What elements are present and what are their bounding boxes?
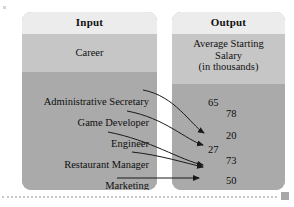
- bottom-right-marker: [281, 192, 289, 200]
- output-value-35: 35: [208, 188, 219, 190]
- output-panel: Output Average Starting Salary (in thous…: [172, 12, 285, 190]
- output-value-20: 20: [226, 130, 237, 141]
- input-column-subtitle: Career: [22, 47, 157, 59]
- mapping-diagram: Input Career Administrative Secretary Ga…: [0, 0, 294, 207]
- bottom-dotted-rule: [2, 196, 277, 198]
- output-value-73: 73: [226, 155, 237, 166]
- output-subtitle-line-2: Salary: [172, 50, 285, 62]
- output-value-27: 27: [208, 144, 219, 155]
- input-column-title: Input: [22, 16, 157, 28]
- output-column-subtitle: Average Starting Salary (in thousands): [172, 38, 285, 73]
- output-value-65: 65: [208, 97, 219, 108]
- output-column-title: Output: [172, 16, 285, 28]
- input-item-game-developer: Game Developer: [78, 117, 149, 128]
- input-item-marketing: Marketing: [105, 180, 149, 190]
- input-panel: Input Career Administrative Secretary Ga…: [22, 12, 157, 190]
- output-subtitle-line-3: (in thousands): [172, 61, 285, 73]
- output-value-50: 50: [226, 175, 237, 186]
- input-item-engineer: Engineer: [111, 138, 149, 149]
- output-value-78: 78: [226, 108, 237, 119]
- input-item-restaurant-manager: Restaurant Manager: [64, 159, 149, 170]
- input-body-band: [22, 72, 157, 190]
- output-subtitle-line-1: Average Starting: [172, 38, 285, 50]
- top-left-tick: [3, 6, 6, 9]
- input-item-administrative-secretary: Administrative Secretary: [44, 96, 149, 107]
